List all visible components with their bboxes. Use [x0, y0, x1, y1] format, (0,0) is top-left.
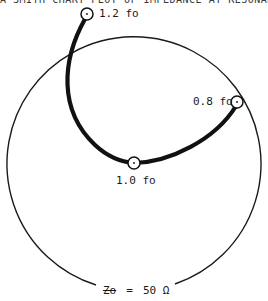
label-1-2-fo: 1.2 fo	[99, 8, 139, 20]
label-0-8-fo: 0.8 fo	[193, 96, 233, 108]
marker-1-2-fo	[81, 8, 93, 20]
smith-chart-plot	[0, 0, 268, 301]
zo-symbol: Zo	[103, 284, 116, 297]
zo-value: 50 Ω	[143, 284, 170, 297]
label-1-0-fo: 1.0 fo	[116, 175, 156, 187]
characteristic-impedance-label: Zo=50 Ω	[103, 285, 169, 297]
equals-sign: =	[126, 284, 133, 297]
marker-0-8-fo	[231, 96, 243, 108]
impedance-locus-curve	[67, 19, 236, 163]
smith-chart-figure: A SMITH CHART PLOT OF IMPEDANCE AT RESON…	[0, 0, 268, 301]
marker-1-0-fo	[128, 157, 140, 169]
